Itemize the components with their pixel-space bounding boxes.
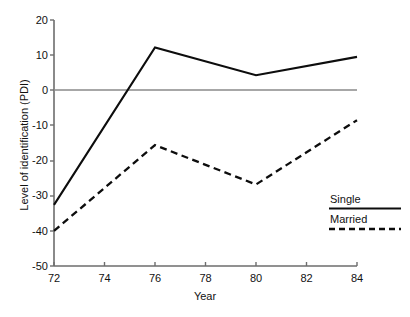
x-tick-label-74: 74: [98, 272, 110, 284]
y-tick-label-minus40: -40: [32, 225, 48, 237]
series-line-married: [54, 120, 357, 231]
x-tick-label-80: 80: [250, 272, 262, 284]
y-axis-title: Level of identification (PDI): [18, 79, 30, 210]
x-tick-label-84: 84: [351, 272, 363, 284]
x-tick-label-76: 76: [149, 272, 161, 284]
series-line-single: [54, 47, 357, 204]
legend-label-married: Married: [330, 213, 367, 225]
y-tick-label-minus50: -50: [32, 260, 48, 272]
y-tick-label-minus20: -20: [32, 154, 48, 166]
x-tick-label-82: 82: [300, 272, 312, 284]
chart-figure: Level of identification (PDI) 20 10 0 -1…: [0, 0, 410, 317]
legend-label-single: Single: [330, 193, 361, 205]
y-tick-label-minus10: -10: [32, 119, 48, 131]
x-axis-title: Year: [194, 290, 217, 302]
y-tick-label-20: 20: [36, 14, 48, 26]
x-tick-label-72: 72: [48, 272, 60, 284]
chart-legend: Single Married: [329, 193, 401, 229]
line-chart-canvas: Level of identification (PDI) 20 10 0 -1…: [0, 0, 410, 317]
x-tick-label-78: 78: [199, 272, 211, 284]
y-tick-label-minus30: -30: [32, 189, 48, 201]
y-tick-label-0: 0: [42, 84, 48, 96]
y-tick-label-10: 10: [36, 49, 48, 61]
